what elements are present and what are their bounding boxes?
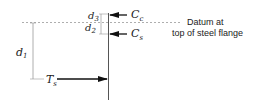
cc-label: Cc [131,8,143,23]
datum-label-line2: top of steel flange [172,28,243,38]
d2-label: d2 [85,22,96,35]
cs-label: Cs [131,27,143,42]
ts-label: Ts [46,73,57,88]
d1-label: d1 [16,46,28,60]
datum-label-line1: Datum at [187,17,224,27]
composite-beam-force-diagram: d3 d2 d1 Cc Cs Ts Datum at top of steel … [0,0,256,104]
